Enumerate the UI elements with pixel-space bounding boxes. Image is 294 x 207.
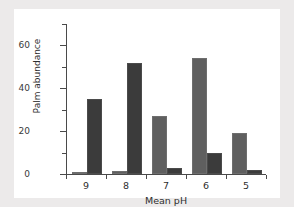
y-tick-label-20: 20 [0, 127, 30, 136]
y-tick-minor-50 [62, 67, 66, 68]
x-tick-3 [186, 175, 187, 179]
y-tick-major-60 [60, 45, 66, 46]
y-tick-minor-30 [62, 110, 66, 111]
x-tick-label-9: 9 [74, 181, 98, 191]
x-axis-title: Mean pH [66, 195, 266, 206]
y-tick-major-20 [60, 131, 66, 132]
y-tick-minor-10 [62, 153, 66, 154]
x-axis-line [66, 174, 266, 175]
bar-ph6-series-b [207, 153, 222, 174]
y-axis-line [66, 24, 67, 174]
x-tick-label-5: 5 [234, 181, 258, 191]
y-tick-label-40: 40 [0, 84, 30, 93]
bar-ph9-series-b [87, 99, 102, 174]
y-axis-title: Palm abundance [32, 31, 42, 121]
y-tick-label-0: 0 [0, 170, 30, 179]
x-tick-5 [266, 175, 267, 179]
bar-ph7-series-b [167, 168, 182, 174]
bar-ph8-series-b [127, 63, 142, 174]
x-tick-0 [66, 175, 67, 179]
y-tick-label-60: 60 [0, 41, 30, 50]
x-tick-1 [106, 175, 107, 179]
bar-ph8-series-a [112, 171, 127, 174]
x-tick-label-6: 6 [194, 181, 218, 191]
x-tick-label-7: 7 [154, 181, 178, 191]
bar-ph9-series-a [72, 172, 87, 174]
x-tick-4 [226, 175, 227, 179]
y-tick-major-40 [60, 88, 66, 89]
bar-ph6-series-a [192, 58, 207, 174]
figure-card: Palm abundance 0 20 40 60 9 8 7 6 5 Mean… [14, 9, 280, 198]
x-tick-2 [146, 175, 147, 179]
x-tick-label-8: 8 [114, 181, 138, 191]
bar-ph7-series-a [152, 116, 167, 174]
bar-ph5-series-a [232, 133, 247, 174]
bar-ph5-series-b [247, 170, 262, 174]
y-tick-minor-70 [62, 24, 66, 25]
bar-chart-plot-area: Palm abundance 0 20 40 60 9 8 7 6 5 Mean… [14, 9, 280, 198]
